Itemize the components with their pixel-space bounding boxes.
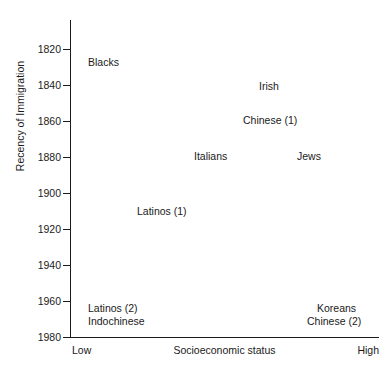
y-tick-label: 1840 bbox=[38, 79, 61, 92]
y-axis-title: Recency of Immigration bbox=[14, 36, 26, 196]
scatter-plot-figure: Recency of Immigration 1820 1840 1860 18… bbox=[0, 0, 384, 371]
data-label-latinos-1: Latinos (1) bbox=[137, 205, 187, 217]
data-label-chinese-1: Chinese (1) bbox=[243, 114, 297, 126]
data-label-koreans: Koreans bbox=[317, 302, 356, 314]
data-label-italians: Italians bbox=[194, 150, 227, 162]
x-axis-right-label: High bbox=[357, 344, 379, 356]
y-axis-line bbox=[70, 20, 71, 338]
y-tick-mark bbox=[63, 49, 70, 50]
data-label-chinese-2: Chinese (2) bbox=[307, 315, 361, 327]
y-tick-mark bbox=[63, 193, 70, 194]
data-label-irish: Irish bbox=[259, 80, 279, 92]
y-tick-label: 1940 bbox=[38, 259, 61, 272]
y-tick-mark bbox=[63, 337, 70, 338]
y-tick-label: 1960 bbox=[38, 295, 61, 308]
data-label-blacks: Blacks bbox=[88, 56, 119, 68]
y-tick-mark bbox=[63, 85, 70, 86]
data-label-jews: Jews bbox=[297, 150, 321, 162]
y-tick-mark bbox=[63, 157, 70, 158]
data-label-indochinese: Indochinese bbox=[88, 315, 145, 327]
y-tick-label: 1860 bbox=[38, 115, 61, 128]
y-tick-label: 1880 bbox=[38, 151, 61, 164]
y-tick-label: 1820 bbox=[38, 43, 61, 56]
y-tick-mark bbox=[63, 121, 70, 122]
y-tick-label: 1980 bbox=[38, 331, 61, 344]
y-tick-mark bbox=[63, 301, 70, 302]
x-axis-title: Socioeconomic status bbox=[70, 344, 379, 356]
y-tick-label: 1900 bbox=[38, 187, 61, 200]
y-tick-mark bbox=[63, 265, 70, 266]
y-tick-mark bbox=[63, 229, 70, 230]
y-tick-label: 1920 bbox=[38, 223, 61, 236]
data-label-latinos-2: Latinos (2) bbox=[88, 302, 138, 314]
x-axis-line bbox=[70, 337, 379, 338]
